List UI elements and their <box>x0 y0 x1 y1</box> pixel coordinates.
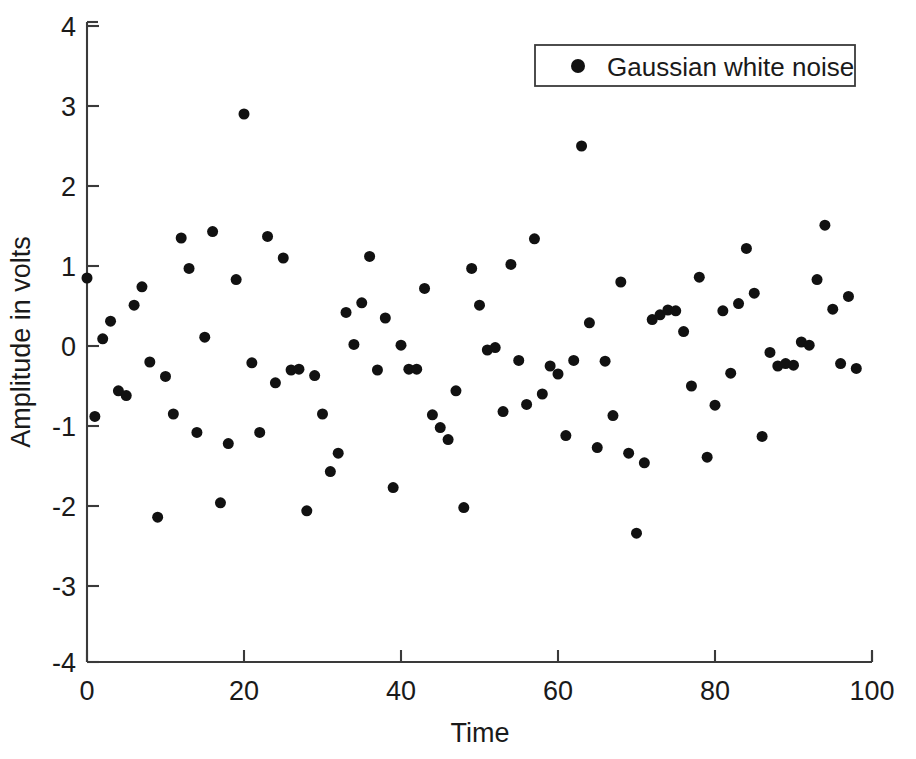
data-point <box>450 385 461 396</box>
data-point <box>694 272 705 283</box>
data-point <box>686 381 697 392</box>
data-point <box>207 226 218 237</box>
data-point <box>568 355 579 366</box>
data-point <box>427 409 438 420</box>
data-point <box>396 340 407 351</box>
data-point <box>600 356 611 367</box>
data-point <box>498 406 509 417</box>
data-point <box>757 431 768 442</box>
data-point <box>529 233 540 244</box>
data-point <box>97 333 108 344</box>
y-tick-label-2: 2 <box>61 172 76 202</box>
data-point <box>223 438 234 449</box>
data-point <box>301 505 312 516</box>
plot-canvas: 4 3 2 1 0 -1 -2 -3 -4 0 20 40 60 80 100 <box>0 0 916 759</box>
y-tick-label-minus3: -3 <box>52 572 76 602</box>
data-point <box>215 497 226 508</box>
data-point <box>82 273 93 284</box>
data-point <box>764 347 775 358</box>
data-point <box>144 357 155 368</box>
data-point <box>545 361 556 372</box>
data-point <box>725 368 736 379</box>
legend[interactable]: Gaussian white noise <box>535 45 855 86</box>
data-point <box>262 231 273 242</box>
legend-label-gaussian-white-noise: Gaussian white noise <box>607 52 854 82</box>
data-point <box>372 365 383 376</box>
data-point <box>576 141 587 152</box>
data-point <box>388 482 399 493</box>
data-point <box>136 281 147 292</box>
data-point <box>537 389 548 400</box>
x-tick-label-40: 40 <box>386 676 416 706</box>
data-point <box>380 313 391 324</box>
data-point <box>678 326 689 337</box>
y-tick-label-1: 1 <box>61 252 76 282</box>
x-axis-tick-labels: 0 20 40 60 80 100 <box>79 676 894 706</box>
data-point <box>309 370 320 381</box>
data-point <box>176 233 187 244</box>
scatter-chart-figure: 4 3 2 1 0 -1 -2 -3 -4 0 20 40 60 80 100 <box>0 0 916 759</box>
data-point <box>293 364 304 375</box>
data-point <box>560 430 571 441</box>
data-point <box>317 409 328 420</box>
data-point <box>435 422 446 433</box>
data-point <box>631 528 642 539</box>
x-tick-label-0: 0 <box>79 676 94 706</box>
data-point <box>419 283 430 294</box>
data-point <box>246 357 257 368</box>
x-axis-ticks <box>87 650 872 662</box>
data-point <box>466 263 477 274</box>
data-point <box>553 369 564 380</box>
y-tick-label-0: 0 <box>61 332 76 362</box>
data-point <box>717 305 728 316</box>
data-point <box>819 220 830 231</box>
data-point <box>411 364 422 375</box>
x-tick-label-20: 20 <box>229 676 259 706</box>
data-point <box>710 400 721 411</box>
data-point <box>804 340 815 351</box>
data-point <box>333 448 344 459</box>
y-axis-ticks <box>87 26 99 662</box>
data-point <box>89 411 100 422</box>
data-point <box>584 317 595 328</box>
data-point <box>670 305 681 316</box>
data-point <box>851 363 862 374</box>
data-point <box>341 307 352 318</box>
data-point <box>191 427 202 438</box>
data-point <box>231 274 242 285</box>
y-tick-label-4: 4 <box>61 12 76 42</box>
y-tick-label-3: 3 <box>61 92 76 122</box>
data-point <box>749 288 760 299</box>
data-point <box>733 298 744 309</box>
scatter-series-gaussian-white-noise <box>82 109 862 539</box>
data-point <box>639 457 650 468</box>
data-point <box>160 371 171 382</box>
data-point <box>505 259 516 270</box>
y-axis-title: Amplitude in volts <box>6 236 36 448</box>
data-point <box>521 399 532 410</box>
data-point <box>364 251 375 262</box>
data-point <box>270 377 281 388</box>
data-point <box>623 448 634 459</box>
data-point <box>356 297 367 308</box>
data-point <box>490 342 501 353</box>
data-point <box>184 263 195 274</box>
y-tick-label-minus2: -2 <box>52 492 76 522</box>
data-point <box>348 339 359 350</box>
data-point <box>129 300 140 311</box>
data-point <box>702 452 713 463</box>
data-point <box>443 434 454 445</box>
data-point <box>325 466 336 477</box>
data-point <box>458 502 469 513</box>
x-tick-label-60: 60 <box>543 676 573 706</box>
data-point <box>105 316 116 327</box>
y-tick-label-minus4: -4 <box>52 648 76 678</box>
data-point <box>513 355 524 366</box>
data-point <box>741 243 752 254</box>
data-point <box>474 300 485 311</box>
data-point <box>788 360 799 371</box>
data-point <box>254 427 265 438</box>
data-point <box>615 277 626 288</box>
y-axis-tick-labels: 4 3 2 1 0 -1 -2 -3 -4 <box>52 12 76 678</box>
data-point <box>592 442 603 453</box>
